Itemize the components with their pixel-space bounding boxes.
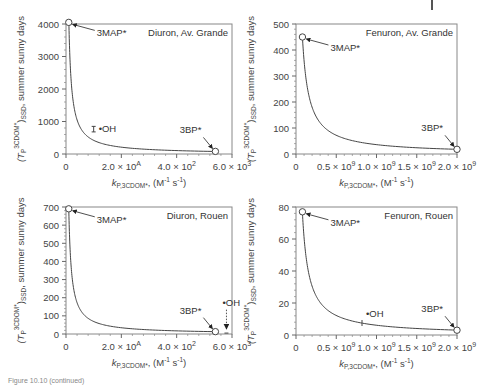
panel-title: Diuron, Rouen (167, 210, 228, 221)
panel-title: Fenuron, Rouen (384, 210, 453, 221)
chart-panel-2: 010020030040050000.5 × 1091.0 × 1091.5 ×… (243, 16, 476, 189)
x-axis-unit: , (M (148, 357, 164, 368)
annotation-arrow (445, 135, 454, 146)
x-tick-label: 4.0 × 102 (157, 340, 196, 352)
point-label: 3BP* (180, 124, 202, 135)
x-axis-subscript: P,3CDOM* (116, 182, 148, 189)
panel-title: Diuron, Av. Grande (148, 27, 228, 38)
tick-label-base: 6.0 × 10 (213, 161, 248, 172)
y-tick-label: 600 (43, 220, 59, 231)
y-axis-title: (TP3CDOM*)SSD, summer sunny days (243, 16, 257, 162)
plot-frame (296, 24, 457, 154)
y-axis-subscript: P (20, 330, 27, 334)
x-axis-title: kP,3CDOM*, (M-1 s-1) (112, 356, 187, 369)
annotation-arrow (73, 211, 95, 217)
x-tick-label: 0.5 × 109 (317, 160, 356, 172)
x-axis-unit: , (M (148, 177, 164, 188)
tick-label-base: 1.5 × 10 (397, 161, 432, 172)
tick-label-exponent: A (136, 340, 141, 347)
figure: 0100020003000400002.0 × 10A4.0 × 1026.0 … (0, 0, 493, 390)
annotation-arrow (445, 316, 454, 327)
chart-panel-3: 010020030040050060070002.0 × 10A4.0 × 10… (13, 197, 251, 369)
point-label: 3MAP* (330, 42, 360, 53)
y-tick-label: 500 (43, 238, 59, 249)
tick-label-exponent: 9 (432, 341, 436, 348)
data-point-3bp (454, 327, 460, 333)
y-tick-label: 80 (278, 202, 289, 213)
page-corner-mark (431, 0, 433, 10)
x-axis-unit: ) (183, 357, 186, 368)
y-tick-label: 40 (278, 266, 289, 277)
x-axis-subscript: P,3CDOM* (344, 363, 376, 370)
x-axis-unit: ) (411, 177, 414, 188)
x-axis-title: kP,3CDOM*, (M-1 s-1) (112, 176, 187, 189)
x-axis-unit: , (M (375, 177, 391, 188)
tick-label-exponent: A (136, 160, 141, 167)
y-axis-subscript: SSD (250, 288, 257, 302)
point-label: 3BP* (180, 305, 202, 316)
annotation-arrow (73, 24, 95, 30)
annotation-arrow (203, 137, 212, 148)
x-axis-subscript: P,3CDOM* (344, 182, 376, 189)
x-axis-unit: ) (411, 358, 414, 369)
annotation-arrow (306, 39, 328, 45)
oh-label: •OH (222, 297, 240, 308)
tick-label-base: 2.0 × 10 (102, 161, 137, 172)
x-axis-subscript: P,3CDOM* (116, 362, 148, 369)
y-tick-label: 500 (273, 19, 289, 30)
tick-label-base: 2.0 × 10 (102, 341, 137, 352)
y-axis-subscript: SSD (20, 287, 27, 301)
x-axis-title: kP,3CDOM*, (M-1 s-1) (339, 176, 414, 189)
y-tick-label: 100 (43, 310, 59, 321)
point-label: 3MAP* (97, 27, 127, 38)
tick-label-exponent: 9 (472, 160, 476, 167)
point-label: 3BP* (421, 303, 443, 314)
tick-label-exponent: 9 (392, 160, 396, 167)
y-axis-subscript: P (20, 149, 27, 153)
tick-label-exponent: 9 (472, 341, 476, 348)
x-tick-label: 2.0 × 109 (438, 160, 477, 172)
data-point-3map (66, 19, 72, 25)
tick-label-base: 4.0 × 10 (157, 341, 192, 352)
y-axis-subscript: P (250, 149, 257, 153)
y-tick-label: 0 (54, 149, 59, 160)
y-tick-label: 400 (273, 45, 289, 56)
data-point-3map (299, 34, 305, 40)
y-axis-superscript: 3CDOM* (243, 304, 250, 330)
y-axis-subscript: SSD (20, 106, 27, 120)
y-axis-unit: , summer sunny days (15, 16, 26, 107)
data-point-3bp (212, 328, 218, 334)
y-tick-label: 700 (43, 202, 59, 213)
x-tick-label: 1.5 × 109 (397, 341, 436, 353)
x-tick-label: 1.0 × 109 (357, 160, 396, 172)
x-tick-label: 1.5 × 109 (397, 160, 436, 172)
tick-label-base: 0.5 × 10 (317, 161, 352, 172)
tick-label-exponent: 9 (392, 341, 396, 348)
y-tick-label: 4000 (38, 19, 59, 30)
data-point-3map (66, 206, 72, 212)
y-tick-label: 300 (43, 274, 59, 285)
tick-label-base: 1.0 × 10 (357, 342, 392, 353)
y-tick-label: 300 (273, 71, 289, 82)
x-axis-unit: , (M (375, 358, 391, 369)
tick-label-exponent: 9 (352, 341, 356, 348)
y-tick-label: 3000 (38, 51, 59, 62)
tick-label-exponent: 9 (432, 160, 436, 167)
y-axis-subscript: P (250, 331, 257, 335)
tick-label-exponent: 9 (352, 160, 356, 167)
plot-frame (66, 24, 232, 154)
y-tick-label: 100 (273, 123, 289, 134)
y-tick-label: 0 (54, 329, 59, 340)
y-axis-unit: , summer sunny days (245, 198, 256, 289)
tick-label-base: 6.0 × 10 (213, 341, 248, 352)
x-axis-unit: ) (183, 177, 186, 188)
x-tick-label: 0.5 × 109 (317, 341, 356, 353)
y-axis-subscript: SSD (250, 106, 257, 120)
annotation-arrow (306, 214, 328, 220)
y-axis-superscript: 3CDOM* (243, 122, 250, 148)
x-tick-label: 2.0 × 10A (102, 160, 142, 172)
x-tick-label: 4.0 × 102 (157, 160, 196, 172)
tick-label-base: 2.0 × 10 (438, 342, 473, 353)
x-tick-label: 1.0 × 109 (357, 341, 396, 353)
y-axis-title: (TP3CDOM*)SSD, summer sunny days (13, 197, 27, 343)
